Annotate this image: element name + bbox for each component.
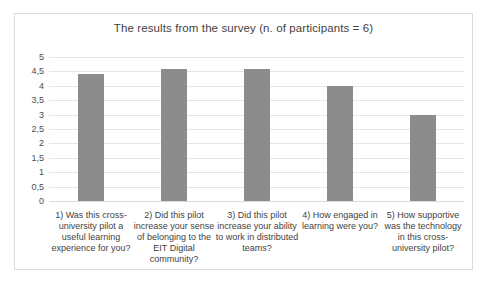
y-tick-label: 0	[15, 196, 44, 206]
bar-category-3	[244, 69, 270, 201]
y-tick-label: 4,5	[15, 66, 44, 76]
chart-frame: The results from the survey (n. of parti…	[14, 13, 473, 270]
x-category-label: 3) Did this pilot increase your ability …	[215, 210, 299, 254]
y-tick-label: 3	[15, 110, 44, 120]
y-tick-label: 3,5	[15, 95, 44, 105]
y-tick-label: 1,5	[15, 153, 44, 163]
plot-area	[49, 57, 464, 201]
bar-category-5	[410, 115, 436, 201]
bar-category-1	[78, 74, 104, 201]
x-category-label: 4) How engaged in learning were you?	[298, 210, 382, 232]
y-tick-label: 0,5	[15, 182, 44, 192]
y-tick-label: 2	[15, 138, 44, 148]
x-category-label: 1) Was this cross-university pilot a use…	[49, 210, 133, 254]
y-tick-label: 1	[15, 167, 44, 177]
y-tick-label: 5	[15, 52, 44, 62]
bar-category-4	[327, 86, 353, 201]
x-axis-line	[49, 201, 464, 202]
x-category-label: 5) How supportive was the technology in …	[381, 210, 465, 254]
page: The results from the survey (n. of parti…	[0, 0, 492, 285]
gridline	[49, 57, 464, 58]
x-category-label: 2) Did this pilot increase your sense of…	[132, 210, 216, 265]
chart-title: The results from the survey (n. of parti…	[15, 22, 472, 34]
bar-category-2	[161, 69, 187, 201]
y-tick-label: 2,5	[15, 124, 44, 134]
y-tick-label: 4	[15, 81, 44, 91]
